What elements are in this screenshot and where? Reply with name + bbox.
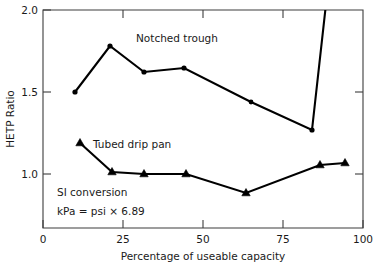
data-point [341, 159, 349, 166]
hetp-ratio-line-chart: 2.0 1.5 1.0 HETP Ratio 0 25 50 75 100 Pe… [0, 0, 381, 264]
x-tick-label-4: 100 [353, 233, 373, 245]
data-point [107, 43, 112, 48]
tubed-drip-pan-label: Tubed drip pan [92, 138, 171, 150]
data-point [76, 139, 84, 146]
x-tick-label-3: 75 [276, 233, 289, 245]
si-conversion-line-2: kPa = psi × 6.89 [57, 205, 145, 217]
x-tick-label-1: 25 [116, 233, 129, 245]
y-tick-label-0: 1.0 [21, 168, 38, 180]
y-axis-title: HETP Ratio [4, 90, 16, 148]
data-point [249, 100, 254, 105]
data-point [72, 89, 77, 94]
data-point [141, 69, 146, 74]
series-notched-trough [72, 4, 326, 133]
x-axis-tick-labels: 0 25 50 75 100 [40, 233, 373, 245]
si-conversion-note: SI conversion kPa = psi × 6.89 [57, 186, 145, 217]
notched-trough-label: Notched trough [136, 32, 218, 44]
y-tick-label-2: 2.0 [21, 4, 38, 16]
chart-figure: 2.0 1.5 1.0 HETP Ratio 0 25 50 75 100 Pe… [0, 0, 381, 264]
series-line-notched-trough [75, 4, 326, 130]
x-tick-label-2: 50 [196, 233, 209, 245]
x-tick-label-0: 0 [40, 233, 47, 245]
x-axis-title: Percentage of useable capacity [121, 250, 286, 262]
y-axis-tick-labels: 2.0 1.5 1.0 [21, 4, 38, 180]
y-tick-label-1: 1.5 [21, 86, 38, 98]
si-conversion-line-1: SI conversion [57, 186, 127, 198]
data-point [309, 127, 314, 132]
data-point [181, 65, 186, 70]
